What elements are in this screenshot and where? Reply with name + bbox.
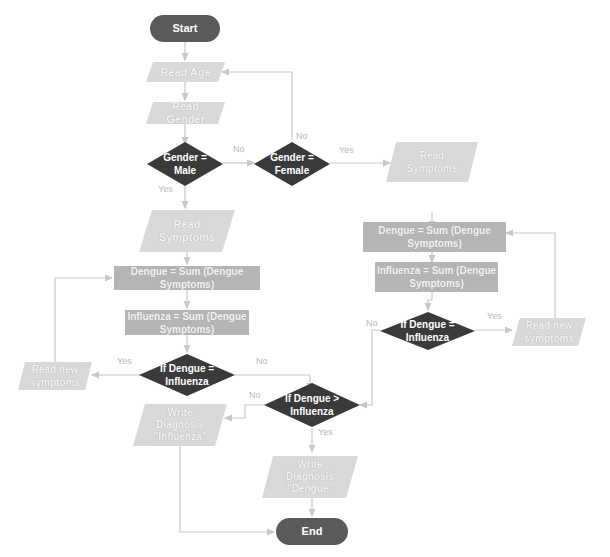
if-greater-decision — [264, 383, 360, 427]
flowchart-canvas: Start Read Age Read Gender Gender = Male… — [0, 0, 610, 557]
edge-label-greater-no: No — [249, 390, 261, 400]
if-equal-left-decision — [139, 354, 235, 396]
dengue-sum-left-process — [114, 266, 260, 290]
read-symptoms-left-io — [139, 210, 235, 252]
end-terminal — [276, 518, 348, 545]
edge-label-male-yes: Yes — [158, 184, 173, 194]
write-influenza-io — [133, 404, 227, 446]
edge-label-female-yes: Yes — [339, 145, 354, 155]
start-terminal — [150, 15, 220, 42]
influenza-sum-right-process — [375, 262, 498, 292]
edge-label-greater-yes: Yes — [318, 427, 333, 437]
read-age-io — [146, 62, 225, 82]
flowchart-shapes — [0, 0, 610, 557]
dengue-sum-right-process — [363, 222, 506, 252]
edge-label-right-eq-yes: Yes — [487, 311, 502, 321]
edge-label-female-no: No — [296, 131, 308, 141]
if-equal-right-decision — [380, 312, 475, 350]
read-new-right-io — [512, 318, 586, 346]
edge-label-left-eq-no: No — [256, 356, 268, 366]
edge-label-male-no: No — [233, 144, 245, 154]
read-gender-io — [146, 102, 225, 124]
edge-label-left-eq-yes: Yes — [117, 356, 132, 366]
edge-label-right-eq-no: No — [366, 318, 378, 328]
gender-female-decision — [254, 142, 330, 186]
influenza-sum-left-process — [125, 310, 249, 335]
write-dengue-io — [262, 456, 358, 498]
read-new-left-io — [18, 362, 92, 390]
gender-male-decision — [147, 142, 223, 186]
read-symptoms-right-io — [386, 142, 478, 182]
